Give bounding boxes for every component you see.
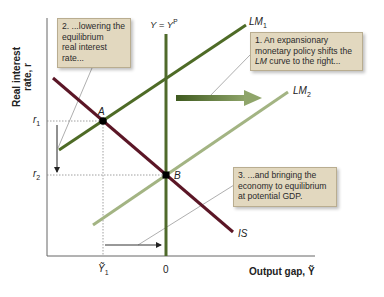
point-b	[163, 172, 170, 179]
x-tick-y1: Ỹ1	[98, 263, 109, 276]
y-axis-title: Real interest rate, r	[11, 27, 41, 127]
callout-1-line2: monetary policy shifts the	[255, 46, 358, 57]
callout3-leader	[138, 185, 234, 245]
callout-2-line4: rate...	[62, 53, 126, 64]
callout-3-line2: economy to equilibrium	[238, 181, 332, 192]
y-axis-title-line2: rate, r	[22, 27, 33, 127]
callout-2: 2. ...lowering the equilibrium real inte…	[57, 18, 131, 68]
callout-2-line3: real interest	[62, 42, 126, 53]
point-a-label: A	[98, 106, 105, 117]
callout-1-line3: LM curve to the right...	[255, 56, 358, 67]
is-label: IS	[238, 228, 247, 239]
callout-3-line1: 3. ...and bringing the	[238, 170, 332, 181]
y-axis-title-line1: Real interest	[11, 27, 22, 127]
x-tick-zero: 0	[163, 264, 169, 275]
callout-1: 1. An expansionary monetary policy shift…	[250, 32, 363, 71]
callout-3: 3. ...and bringing the economy to equili…	[233, 167, 337, 207]
x-axis-title: Output gap, Ỹ	[249, 266, 315, 277]
lm1-label: LM1	[249, 16, 267, 29]
is-curve	[53, 78, 233, 232]
shift-right-arrow	[176, 90, 262, 106]
point-a	[99, 117, 107, 125]
y-tick-r2: r2	[33, 168, 40, 181]
callout-3-line3: at potential GDP.	[238, 191, 332, 202]
callout1-leader	[208, 55, 250, 98]
y-tick-r1: r1	[33, 114, 40, 127]
lm2-label: LM2	[293, 85, 311, 98]
callout-2-line2: equilibrium	[62, 32, 126, 43]
potential-output-label: Y = YP	[150, 18, 178, 30]
callout-1-line1: 1. An expansionary	[255, 35, 358, 46]
callout-2-line1: 2. ...lowering the	[62, 21, 126, 32]
point-b-label: B	[174, 170, 181, 181]
